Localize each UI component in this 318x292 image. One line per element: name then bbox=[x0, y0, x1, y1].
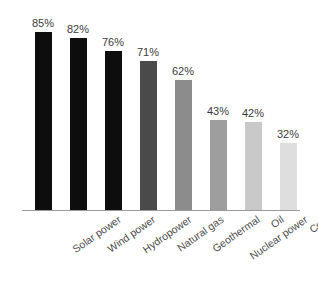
bar-hydropower bbox=[105, 51, 122, 210]
plot-area: 85% 82% 76% 71% 62% 43% 42% 32% Solar po… bbox=[0, 0, 318, 292]
bar-oil bbox=[245, 122, 262, 210]
x-tick-label-coal: Coal bbox=[307, 213, 318, 235]
bar-value-oil: 42% bbox=[231, 107, 275, 119]
bar-natural-gas bbox=[140, 61, 157, 210]
x-axis-line bbox=[22, 210, 300, 212]
bar-value-natural-gas: 71% bbox=[126, 46, 170, 58]
bar-solar-power bbox=[35, 32, 52, 210]
bar-nuclear-power bbox=[210, 120, 227, 210]
bar-value-coal: 32% bbox=[266, 128, 310, 140]
bar-geothermal bbox=[175, 80, 192, 210]
bar-chart: 85% 82% 76% 71% 62% 43% 42% 32% Solar po… bbox=[0, 0, 318, 292]
bar-wind-power bbox=[70, 38, 87, 210]
bar-value-geothermal: 62% bbox=[161, 65, 205, 77]
x-tick-text-coal: Coal bbox=[307, 213, 318, 235]
bar-coal bbox=[280, 143, 297, 210]
bar-value-wind-power: 82% bbox=[56, 23, 100, 35]
